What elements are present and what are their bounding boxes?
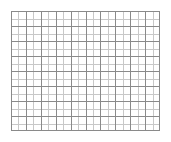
grid-plot-area [11, 11, 160, 131]
figure-canvas [0, 0, 171, 142]
grid-svg [11, 11, 160, 131]
